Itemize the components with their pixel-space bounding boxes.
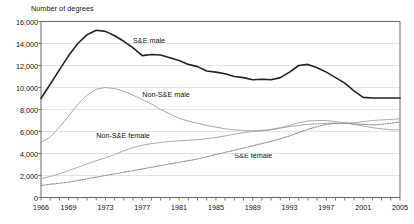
degrees-line-chart: Number of degrees 16,00014,00012,00010,0… [0, 0, 414, 224]
data-series [41, 30, 400, 185]
series-line [41, 30, 400, 98]
gridlines [41, 22, 400, 176]
series-line [41, 88, 400, 143]
plot-area [0, 0, 414, 224]
